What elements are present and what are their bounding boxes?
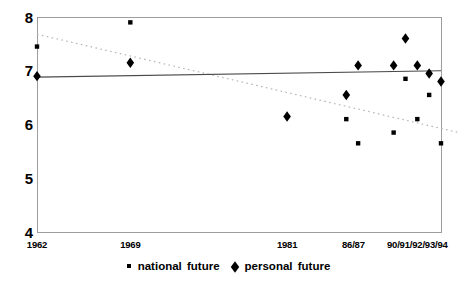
legend-item-personal: personal future bbox=[232, 260, 331, 273]
trend-line-national bbox=[37, 34, 459, 132]
square-icon bbox=[127, 264, 131, 268]
data-point-personal bbox=[437, 76, 445, 86]
y-tick-label: 5 bbox=[0, 171, 33, 186]
y-tick-label: 6 bbox=[0, 117, 33, 132]
data-point-national bbox=[344, 117, 348, 121]
legend-label: national future bbox=[138, 260, 220, 273]
data-point-personal bbox=[33, 71, 41, 81]
trend-line-personal bbox=[37, 71, 441, 77]
x-tick-label: 1981 bbox=[277, 240, 297, 250]
legend-label: personal future bbox=[245, 260, 331, 273]
data-point-national bbox=[403, 77, 407, 81]
diamond-icon bbox=[230, 261, 238, 272]
data-point-national bbox=[356, 141, 360, 145]
legend: national futurepersonal future bbox=[0, 260, 457, 273]
y-tick-label: 8 bbox=[0, 10, 33, 25]
data-point-personal bbox=[402, 33, 410, 43]
y-tick-label: 4 bbox=[0, 225, 33, 240]
y-tick-label: 7 bbox=[0, 63, 33, 78]
x-tick-label: 86/87 bbox=[342, 240, 365, 250]
x-tick-label: 1962 bbox=[27, 240, 47, 250]
data-point-national bbox=[128, 20, 132, 24]
data-point-personal bbox=[390, 60, 398, 70]
data-point-personal bbox=[342, 90, 350, 100]
data-point-national bbox=[427, 93, 431, 97]
chart-figure: 87654 19621969198186/8790/91/92/93/94 na… bbox=[0, 0, 465, 286]
legend-item-national: national future bbox=[127, 260, 220, 273]
plot-border bbox=[38, 18, 442, 233]
x-tick-label: 90/91/92/93/94 bbox=[387, 240, 448, 250]
data-point-personal bbox=[127, 57, 135, 67]
data-point-national bbox=[415, 117, 419, 121]
data-point-personal bbox=[414, 60, 422, 70]
data-point-personal bbox=[354, 60, 362, 70]
x-tick-label: 1969 bbox=[120, 240, 140, 250]
data-point-national bbox=[35, 44, 39, 48]
data-point-national bbox=[391, 130, 395, 134]
data-point-personal bbox=[283, 111, 291, 121]
data-point-personal bbox=[425, 68, 433, 78]
data-point-national bbox=[439, 141, 443, 145]
